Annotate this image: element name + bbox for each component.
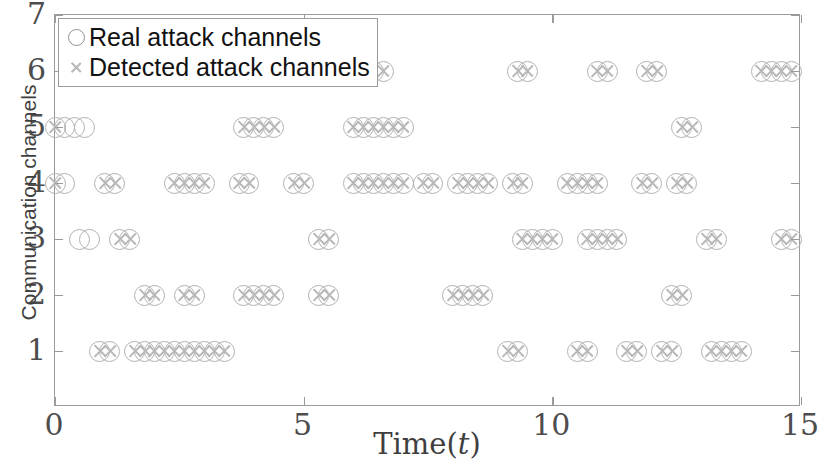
detected-attack-marker	[589, 175, 605, 191]
x-axis-tick	[552, 15, 553, 23]
detected-attack-marker	[122, 231, 138, 247]
x-axis-tick	[304, 397, 305, 405]
y-axis-tick	[791, 183, 799, 184]
detected-attack-marker	[644, 175, 660, 191]
x-axis-tick	[801, 15, 802, 23]
detected-attack-marker	[599, 63, 615, 79]
detected-attack-marker	[510, 343, 526, 359]
y-axis-tick	[55, 15, 63, 16]
detected-attack-marker	[321, 231, 337, 247]
legend-label-detected: Detected attack channels	[89, 55, 370, 80]
y-axis-title: Communication channels	[18, 3, 39, 403]
detected-attack-marker	[579, 343, 595, 359]
y-axis-tick	[791, 71, 799, 72]
detected-attack-marker	[425, 175, 441, 191]
detected-attack-marker	[649, 63, 665, 79]
detected-attack-marker	[708, 231, 724, 247]
detected-attack-marker	[629, 343, 645, 359]
detected-attack-marker	[296, 175, 312, 191]
detected-attack-marker	[733, 343, 749, 359]
scatter-chart-figure: 1234567 Real attack channels Detected at…	[0, 0, 828, 462]
detected-attack-marker	[544, 231, 560, 247]
x-axis-tick	[552, 397, 553, 405]
chart-legend: Real attack channels Detected attack cha…	[58, 18, 378, 87]
detected-attack-marker	[609, 231, 625, 247]
x-axis-tick-label: 5	[293, 410, 312, 440]
real-attack-marker	[74, 117, 95, 138]
x-axis-tick-label: 15	[781, 410, 819, 440]
detected-attack-marker	[216, 343, 232, 359]
y-axis-tick	[55, 183, 63, 184]
detected-attack-marker	[674, 287, 690, 303]
x-axis-tick	[801, 397, 802, 405]
detected-attack-marker	[186, 287, 202, 303]
detected-attack-marker	[395, 175, 411, 191]
y-axis-tick	[791, 351, 799, 352]
detected-attack-marker	[196, 175, 212, 191]
x-axis-title: Time(t)	[54, 430, 800, 459]
y-axis-tick	[791, 239, 799, 240]
x-axis-title-variable: t	[458, 427, 470, 461]
x-marker-icon	[63, 54, 89, 80]
y-axis-tick	[55, 127, 63, 128]
detected-attack-marker	[266, 119, 282, 135]
detected-attack-marker	[395, 119, 411, 135]
real-attack-marker	[79, 229, 100, 250]
y-axis-tick	[55, 295, 63, 296]
detected-attack-marker	[684, 119, 700, 135]
detected-attack-marker	[107, 175, 123, 191]
detected-attack-marker	[679, 175, 695, 191]
x-axis-tick-label: 0	[44, 410, 63, 440]
x-axis-tick	[55, 397, 56, 405]
x-axis-title-main: Time(	[373, 427, 458, 461]
legend-item-detected: Detected attack channels	[63, 52, 370, 82]
detected-attack-marker	[321, 287, 337, 303]
y-axis-tick	[791, 127, 799, 128]
circle-marker-icon	[63, 24, 89, 50]
detected-attack-marker	[266, 287, 282, 303]
x-axis-tick-label: 10	[532, 410, 570, 440]
detected-attack-marker	[241, 175, 257, 191]
x-axis-title-end: )	[469, 427, 480, 461]
y-axis-tick	[55, 239, 63, 240]
legend-label-real: Real attack channels	[89, 25, 321, 50]
detected-attack-marker	[480, 175, 496, 191]
detected-attack-marker	[664, 343, 680, 359]
legend-item-real: Real attack channels	[63, 22, 370, 52]
detected-attack-marker	[519, 63, 535, 79]
detected-attack-marker	[146, 287, 162, 303]
y-axis-tick	[791, 15, 799, 16]
y-axis-tick	[55, 351, 63, 352]
detected-attack-marker	[514, 175, 530, 191]
detected-attack-marker	[475, 287, 491, 303]
detected-attack-marker	[102, 343, 118, 359]
y-axis-tick	[791, 295, 799, 296]
